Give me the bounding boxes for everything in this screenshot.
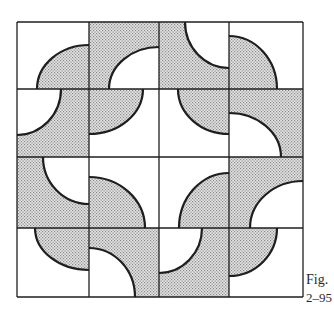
- tile-r3-c2: [159, 228, 229, 297]
- tile-r0-c0: [17, 22, 89, 89]
- tile-grid: [17, 22, 303, 297]
- tile-r2-c1: [89, 157, 159, 228]
- tile-r3-c0: [17, 228, 89, 297]
- tile-r1-c2: [159, 89, 229, 157]
- tile-r1-c0: [17, 89, 89, 157]
- tile-r0-c1: [89, 22, 159, 89]
- tile-r1-c1: [89, 89, 159, 157]
- tile-r3-c3: [229, 228, 303, 297]
- tile-r3-c1: [89, 228, 159, 297]
- figure-caption-number: 2–95: [306, 291, 332, 305]
- tile-r2-c2: [159, 157, 229, 228]
- tile-r2-c3: [229, 157, 303, 228]
- tile-r0-c3: [229, 22, 303, 89]
- tile-r0-c2: [159, 22, 229, 89]
- tile-r2-c0: [17, 157, 89, 228]
- tile-pattern-figure: [0, 0, 334, 315]
- tile-r1-c3: [229, 89, 303, 157]
- figure-caption-label: Fig.: [306, 273, 328, 287]
